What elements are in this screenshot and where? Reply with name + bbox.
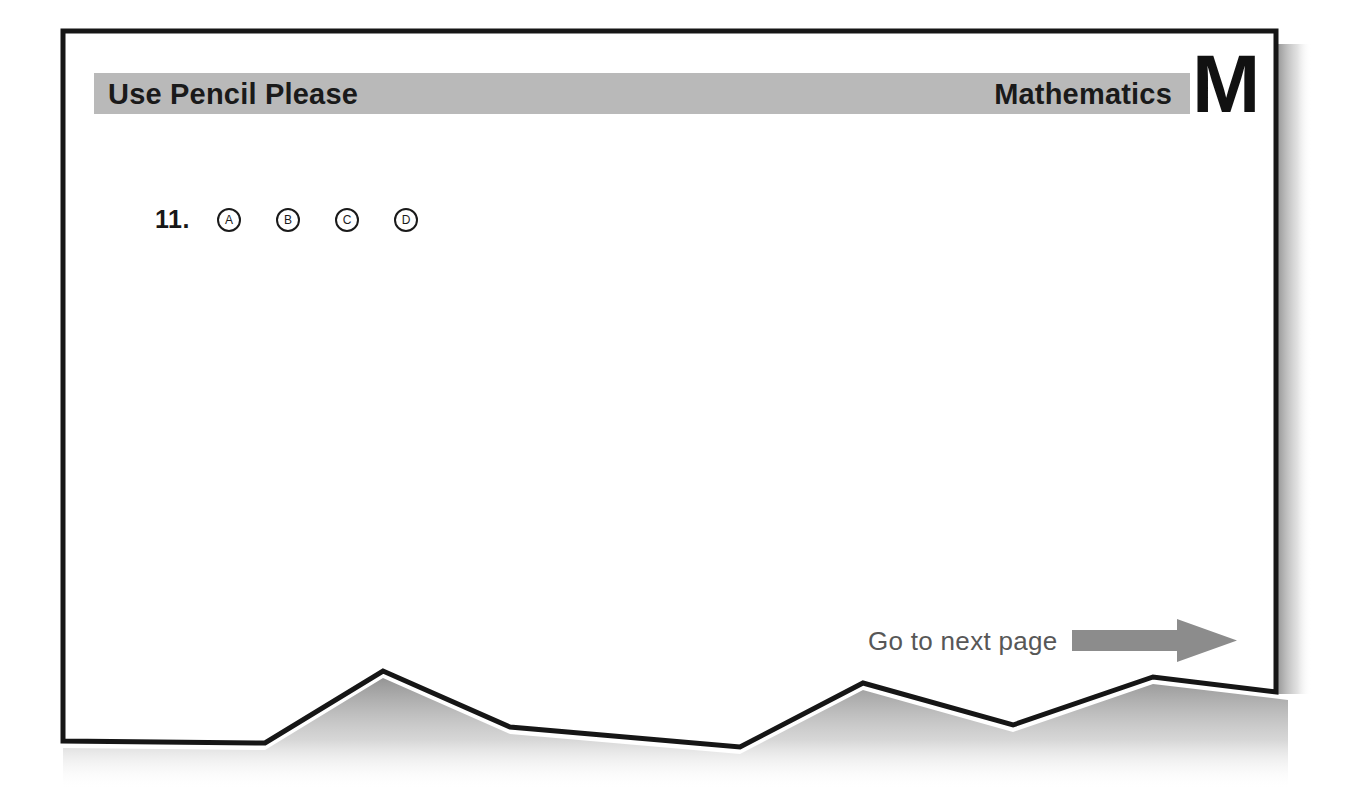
bubble-d-label: D [402,214,411,226]
bubble-a[interactable]: A [217,208,241,232]
next-page-note: Go to next page [868,619,1237,663]
subject-label: Mathematics [994,75,1172,113]
bubble-c[interactable]: C [335,208,359,232]
answer-sheet-page: Use Pencil Please Mathematics M 11. A B … [0,0,1347,790]
subject-letter-badge: M [1192,43,1258,125]
bubble-b-label: B [284,214,292,226]
sheet-content: Use Pencil Please Mathematics M 11. A B … [0,0,1347,790]
pencil-instruction-label: Use Pencil Please [108,75,358,113]
question-row: 11. A B C D [155,205,418,234]
right-arrow-icon [1072,619,1237,663]
question-number: 11. [155,205,217,234]
bubble-b[interactable]: B [276,208,300,232]
answer-bubble-group: A B C D [217,208,418,232]
next-page-label: Go to next page [868,626,1058,657]
bubble-d[interactable]: D [394,208,418,232]
bubble-a-label: A [225,214,233,226]
bubble-c-label: C [343,214,352,226]
